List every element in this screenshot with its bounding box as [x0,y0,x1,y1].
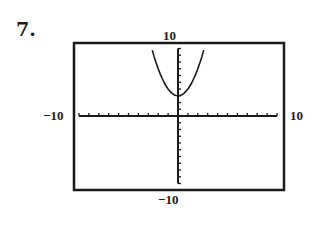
xmax-label: 10 [290,108,303,124]
ymax-label: 10 [163,28,176,44]
ymin-label: −10 [158,192,178,208]
xmin-label: −10 [43,108,63,124]
